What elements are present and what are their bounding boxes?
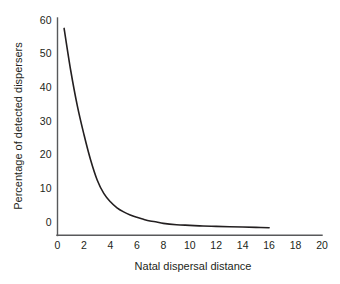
x-tick-label: 20 bbox=[316, 239, 328, 251]
x-tick-label: 16 bbox=[263, 239, 275, 251]
x-tick-label: 2 bbox=[81, 239, 87, 251]
y-tick-label: 0 bbox=[46, 216, 52, 228]
line-series-detected-dispersers bbox=[64, 28, 269, 227]
y-tick-label: 10 bbox=[40, 182, 52, 194]
y-tick-label: 60 bbox=[40, 14, 52, 26]
x-tick-label: 0 bbox=[55, 239, 61, 251]
x-tick-label: 14 bbox=[237, 239, 249, 251]
x-tick-label: 4 bbox=[107, 239, 113, 251]
x-tick-label: 8 bbox=[160, 239, 166, 251]
x-axis-tick-labels: 02468101214161820 bbox=[55, 239, 328, 251]
y-tick-label: 50 bbox=[40, 47, 52, 59]
x-tick-label: 10 bbox=[184, 239, 196, 251]
y-axis-title: Percentage of detected dispersers bbox=[12, 42, 24, 210]
chart-figure: 0102030405060 02468101214161820 Natal di… bbox=[0, 0, 340, 284]
x-tick-label: 6 bbox=[134, 239, 140, 251]
series-group bbox=[64, 28, 269, 227]
axes-group bbox=[57, 18, 322, 236]
y-axis-tick-labels: 0102030405060 bbox=[40, 14, 52, 228]
x-axis-title: Natal dispersal distance bbox=[135, 260, 252, 272]
x-tick-label: 18 bbox=[290, 239, 302, 251]
y-tick-label: 30 bbox=[40, 115, 52, 127]
chart-plot-area: 0102030405060 02468101214161820 Natal di… bbox=[0, 0, 340, 284]
x-tick-label: 12 bbox=[210, 239, 222, 251]
y-tick-label: 20 bbox=[40, 148, 52, 160]
y-tick-label: 40 bbox=[40, 81, 52, 93]
